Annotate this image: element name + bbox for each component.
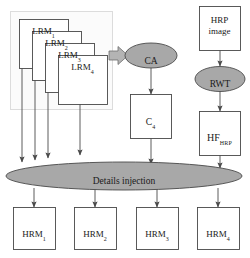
- rwt-ellipse: [195, 67, 245, 92]
- figure-diagram: LRM1 LRM2 LRM3 LRM4 CA C4 HRPimage RWT H…: [0, 0, 250, 258]
- hrp-image-box: [200, 7, 241, 51]
- c4-box: [131, 95, 172, 139]
- details-injection-ellipse: [6, 162, 242, 190]
- lrm-box-4: [59, 56, 108, 105]
- hrm-box-1: [14, 208, 56, 250]
- hrm-box-3: [137, 208, 179, 250]
- diagram-vector-layer: [0, 0, 250, 258]
- hrm-box-4: [198, 208, 240, 250]
- hrm-box-2: [75, 208, 117, 250]
- hf-hrp-box: [200, 112, 241, 156]
- ca-ellipse: [125, 43, 177, 68]
